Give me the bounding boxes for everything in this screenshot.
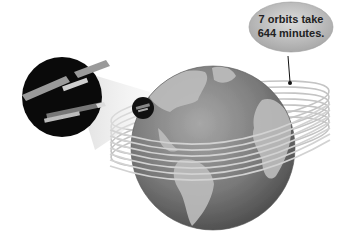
callout-line-1: 7 orbits take	[253, 12, 329, 26]
callout-label: 7 orbits take 644 minutes.	[253, 12, 329, 40]
callout-pointer	[288, 56, 290, 82]
satellite-marker-icon	[132, 97, 154, 119]
callout-line-2: 644 minutes.	[253, 26, 329, 40]
